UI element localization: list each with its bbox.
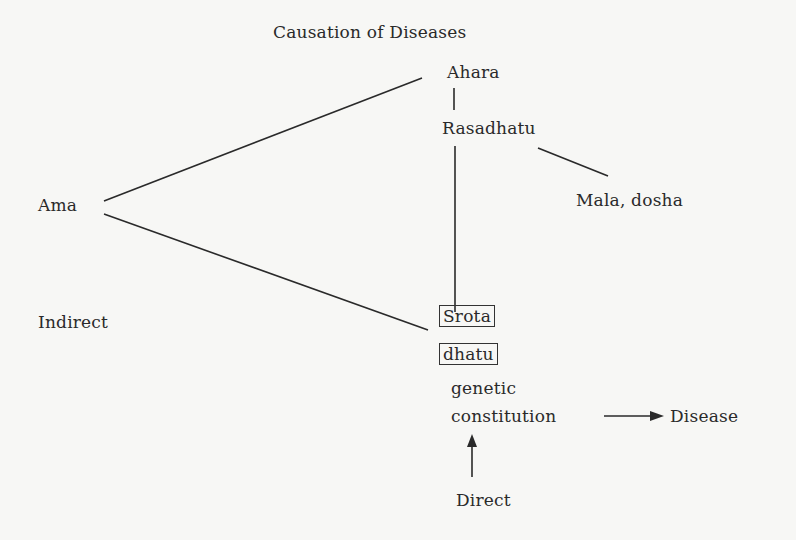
line-ama-srota (104, 214, 428, 330)
connector-lines (0, 0, 796, 540)
node-constitution: constitution (451, 406, 556, 426)
node-genetic: genetic (451, 378, 516, 398)
arrowhead-up-icon (467, 434, 477, 447)
line-ama-ahara (104, 78, 422, 201)
node-mala-dosha: Mala, dosha (576, 190, 683, 210)
diagram-title: Causation of Diseases (273, 22, 466, 42)
label-direct: Direct (456, 490, 511, 510)
node-ahara: Ahara (447, 62, 500, 82)
node-ama: Ama (38, 195, 77, 215)
arrowhead-right-icon (650, 411, 664, 421)
label-indirect: Indirect (38, 312, 108, 332)
node-srota: Srota (439, 305, 495, 327)
node-dhatu: dhatu (439, 343, 498, 365)
node-rasadhatu: Rasadhatu (442, 118, 536, 138)
node-disease: Disease (670, 406, 738, 426)
line-rasadhatu-mala (538, 148, 608, 176)
